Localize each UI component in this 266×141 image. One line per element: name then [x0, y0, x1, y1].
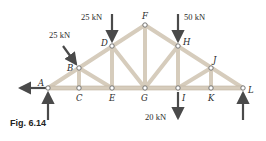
- node-F: [143, 23, 147, 27]
- node-label-G: G: [141, 93, 148, 103]
- node-label-K: K: [207, 93, 215, 103]
- node-label-F: F: [141, 11, 149, 21]
- node-L: [241, 86, 245, 90]
- node-label-L: L: [247, 85, 254, 95]
- node-C: [77, 86, 81, 90]
- node-label-H: H: [182, 37, 191, 47]
- node-J: [209, 66, 213, 70]
- node-label-D: D: [100, 38, 108, 48]
- arrow-load-B: [63, 46, 76, 64]
- node-label-B: B: [66, 63, 73, 73]
- node-D: [110, 44, 114, 48]
- node-label-A: A: [37, 78, 44, 88]
- load-label-H: 50 kN: [184, 12, 205, 22]
- node-I: [176, 86, 180, 90]
- node-G: [143, 86, 147, 90]
- node-E: [110, 86, 114, 90]
- figure-caption: Fig. 6.14: [10, 118, 46, 128]
- node-K: [209, 86, 213, 90]
- node-label-I: I: [181, 93, 186, 103]
- load-label-B: 25 kN: [49, 30, 70, 40]
- node-label-J: J: [211, 55, 217, 65]
- node-B: [77, 66, 81, 70]
- load-label-D: 25 kN: [81, 12, 102, 22]
- load-label-I: 20 kN: [145, 112, 166, 122]
- node-label-E: E: [108, 93, 116, 103]
- node-label-C: C: [76, 93, 83, 103]
- node-H: [176, 44, 180, 48]
- node-A: [46, 86, 50, 90]
